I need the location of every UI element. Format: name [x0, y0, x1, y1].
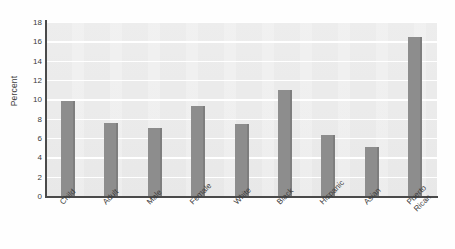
gridline: [46, 99, 437, 100]
bar: [278, 90, 292, 196]
gridline: [46, 41, 437, 42]
bar: [191, 106, 205, 196]
bar: [104, 123, 118, 196]
y-tick-label: 14: [2, 56, 42, 65]
gridline: [46, 119, 437, 120]
y-tick-label: 0: [2, 192, 42, 201]
y-tick-label: 8: [2, 114, 42, 123]
y-tick-label: 6: [2, 134, 42, 143]
y-tick-label: 2: [2, 172, 42, 181]
y-tick-label: 18: [2, 18, 42, 27]
gridline: [46, 22, 437, 23]
y-tick-label: 4: [2, 153, 42, 162]
gridline: [46, 80, 437, 81]
y-axis-line: [45, 20, 47, 198]
y-tick-label: 10: [2, 95, 42, 104]
y-axis-tick-labels: 024681012141618: [0, 0, 42, 249]
y-tick-label: 16: [2, 37, 42, 46]
bar: [61, 101, 75, 196]
bar: [408, 37, 422, 197]
gridline: [46, 61, 437, 62]
plot-area: [46, 22, 437, 196]
bar-chart: Percent 024681012141618 ChildAdultMaleFe…: [0, 0, 455, 249]
y-tick-label: 12: [2, 76, 42, 85]
bar: [148, 128, 162, 196]
